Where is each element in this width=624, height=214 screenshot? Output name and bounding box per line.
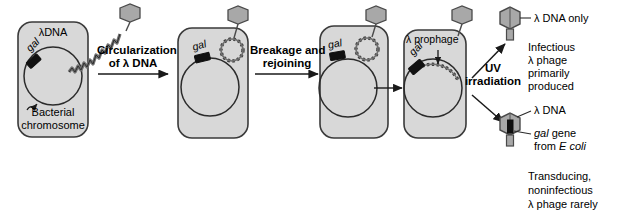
from-word: from	[534, 140, 559, 152]
step-2-label-line1: Breakage and	[250, 44, 324, 57]
output-bottom-callout-lambda: λ DNA	[534, 104, 566, 116]
uv-arrow-down	[472, 95, 503, 122]
output-bottom-callout-ecoli: from E coli	[534, 140, 586, 152]
output-top-callout: λ DNA only	[534, 12, 588, 24]
output-bottom-note-1: Transducing,	[528, 170, 591, 182]
output-bottom-note-3: λ phage rarely	[528, 198, 598, 210]
step-1-label-line2: of λ DNA	[97, 57, 169, 70]
step-1-label-line1: Circularization	[97, 44, 169, 57]
gal-italic: gal	[534, 127, 549, 139]
uv-label-line2: irradiation	[455, 75, 531, 88]
output-bottom-phage	[500, 111, 531, 146]
output-top-note-4: produced	[528, 80, 574, 92]
gene-word: gene	[549, 127, 577, 139]
cell-2-graphic	[178, 6, 248, 138]
ecoli-italic: E coli	[559, 140, 586, 152]
step-2-label-line2: rejoining	[250, 57, 324, 70]
cell-1-chromosome-label-line1: Bacterial	[10, 106, 96, 119]
uv-label-line1: UV	[461, 62, 525, 75]
output-top-note-3: primarily	[528, 67, 570, 79]
cell-1-chromosome-label-line2: chromosome	[6, 119, 100, 132]
output-top-phage	[500, 7, 531, 40]
output-top-note-2: λ phage	[528, 54, 567, 66]
output-bottom-callout-gal: gal gene	[534, 127, 576, 139]
cell-3-graphic	[319, 6, 388, 138]
output-top-note-1: Infectious	[528, 41, 575, 53]
transduction-diagram: λDNA gal Bacterial chromosome Circulariz…	[0, 0, 624, 214]
output-bottom-note-2: noninfectious	[528, 184, 593, 196]
